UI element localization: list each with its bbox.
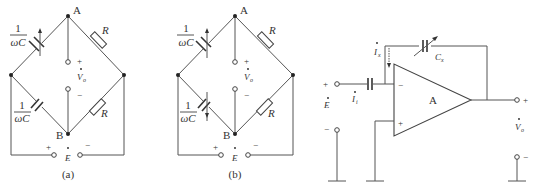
source-plus-sign: + <box>323 79 328 89</box>
source-terminal-minus <box>246 153 251 158</box>
reactance-label-numerator: 1 <box>185 99 191 111</box>
reactance-label-denominator: ωC <box>10 36 26 48</box>
output-terminal-plus <box>515 98 520 103</box>
current-arrow-icon <box>387 63 391 68</box>
reactance-label-numerator: 1 <box>183 22 189 34</box>
resistor-label: R <box>101 24 109 36</box>
resistor-label: R <box>267 107 275 119</box>
output-voltage-subscript: o <box>521 127 524 133</box>
noninverting-input-sign: + <box>398 118 403 128</box>
node-a-label: A <box>240 4 248 16</box>
output-terminal-minus <box>515 155 520 160</box>
node-right <box>122 73 126 77</box>
variable-capacitor-icon <box>29 28 44 56</box>
output-plus-sign: + <box>77 56 82 66</box>
capacitor-icon <box>368 78 372 90</box>
reactance-label-numerator: 1 <box>15 22 21 34</box>
source-terminal-minus <box>335 128 340 133</box>
node-left <box>9 73 13 77</box>
source-terminal-plus <box>219 153 224 158</box>
source-voltage-symbol: E <box>323 100 330 110</box>
feedback-current-subscript: x <box>377 52 381 58</box>
output-terminal-plus <box>233 60 238 65</box>
feedback-cap-subscript: x <box>440 57 444 63</box>
reactance-label-denominator: ωC <box>180 112 196 124</box>
source-terminal-plus <box>335 82 340 87</box>
output-terminal-plus <box>66 60 71 65</box>
node-b-label: B <box>223 129 230 141</box>
source-plus-sign: + <box>46 142 51 152</box>
bridge-circuit-b: 1 ωC 1 ωC R R A B + <box>176 4 295 181</box>
panel-caption: (b) <box>229 168 242 181</box>
output-voltage-subscript: o <box>83 77 86 83</box>
node-left <box>176 73 180 77</box>
opamp-label: A <box>429 94 437 106</box>
opamp-circuit: + − E I i C x I x <box>323 36 528 181</box>
source-voltage-symbol: E <box>64 153 71 163</box>
node-a <box>66 14 70 18</box>
source-terminal-plus <box>52 153 57 158</box>
source-minus-sign: − <box>253 140 258 150</box>
output-terminal-minus <box>233 87 238 92</box>
source-terminal-minus <box>78 153 83 158</box>
panel-caption: (a) <box>62 168 75 181</box>
node-b <box>233 132 237 136</box>
source-minus-sign: − <box>324 124 329 134</box>
source-plus-sign: + <box>213 142 218 152</box>
node-a-label: A <box>73 4 81 16</box>
node-a <box>233 14 237 18</box>
reactance-label-numerator: 1 <box>19 99 25 111</box>
bridge-circuit-a: 1 ωC 1 ωC R R A B + V <box>9 4 126 181</box>
output-voltage-subscript: o <box>250 77 253 83</box>
inverting-input-sign: − <box>398 80 403 90</box>
output-plus-sign: + <box>244 56 249 66</box>
reactance-label-denominator: ωC <box>178 36 194 48</box>
capacitor-icon <box>31 99 44 112</box>
node-right <box>291 73 295 77</box>
resistor-label: R <box>100 107 108 119</box>
output-minus-sign: − <box>244 90 249 100</box>
output-minus-sign: − <box>523 152 528 162</box>
input-current-subscript: i <box>356 99 358 105</box>
output-terminal-minus <box>66 87 71 92</box>
node-b <box>66 132 70 136</box>
reactance-label-denominator: ωC <box>14 112 30 124</box>
circuit-figure: 1 ωC 1 ωC R R A B + V <box>0 0 539 194</box>
output-minus-sign: − <box>77 90 82 100</box>
resistor-label: R <box>268 24 276 36</box>
source-voltage-symbol: E <box>231 153 238 163</box>
source-minus-sign: − <box>85 140 90 150</box>
output-plus-sign: + <box>523 95 528 105</box>
variable-capacitor-icon <box>198 92 211 121</box>
node-b-label: B <box>56 129 63 141</box>
